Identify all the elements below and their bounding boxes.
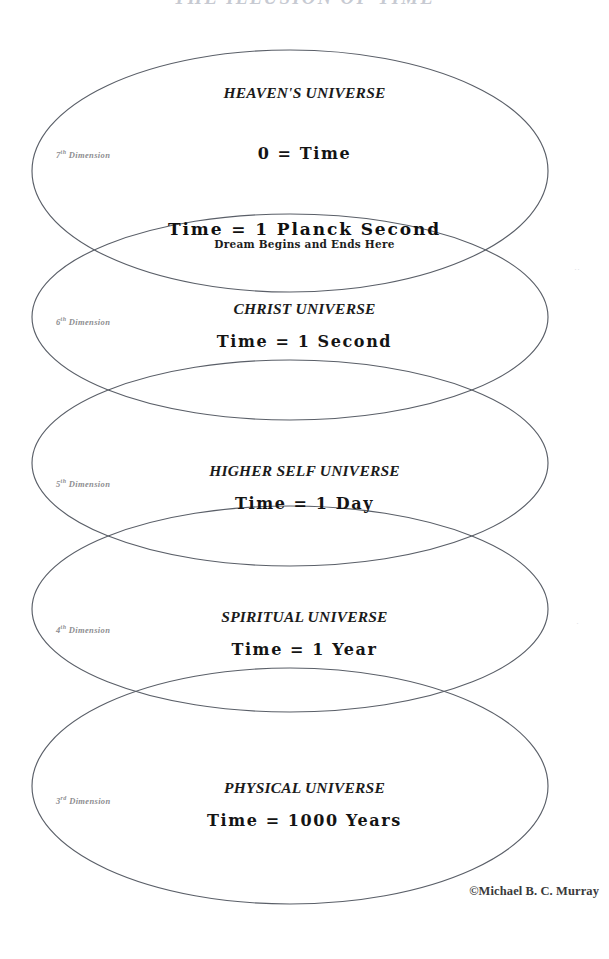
dimension-label-3rd: 3rd Dimension [56, 796, 111, 806]
zone-time-row-spiritual-universe: Time = 1 Year [0, 640, 609, 659]
dream-begins-ends-label: Dream Begins and Ends Here [0, 238, 609, 250]
dimension-word-7: Dimension [69, 150, 110, 160]
dimension-ordinal-7: th [61, 149, 67, 155]
zone-christ-universe: CHRIST UNIVERSE [0, 300, 609, 318]
zone-heavens-universe: HEAVEN'S UNIVERSE [0, 84, 609, 102]
zone-spiritual-universe: SPIRITUAL UNIVERSE [0, 608, 609, 626]
zone-title-higher-self-universe: HIGHER SELF UNIVERSE [0, 462, 609, 480]
dimension-ordinal-6: th [61, 316, 67, 322]
diagram-page: THE ILLUSION OF TIME HEAVEN'S UNIVERSE 0… [0, 0, 609, 959]
dimension-ordinal-5: th [61, 478, 67, 484]
zone-time-physical-universe: Time = 1000 Years [0, 811, 609, 830]
dimension-word-4: Dimension [69, 625, 110, 635]
dimension-label-6th: 6th Dimension [56, 317, 110, 327]
zone-title-heavens-universe: HEAVEN'S UNIVERSE [0, 84, 609, 102]
dimension-label-4th: 4th Dimension [56, 625, 110, 635]
dimension-word-3: Dimension [69, 796, 110, 806]
dimension-word-5: Dimension [69, 479, 110, 489]
zone-time-row-physical-universe: Time = 1000 Years [0, 811, 609, 830]
zone-title-physical-universe: PHYSICAL UNIVERSE [0, 779, 609, 797]
text-layer: HEAVEN'S UNIVERSE 0 = Time 7th Dimension… [0, 0, 609, 959]
dimension-label-7th: 7th Dimension [56, 150, 110, 160]
zone-time-row-christ-universe: Time = 1 Second [0, 332, 609, 351]
zone-higher-self-universe: HIGHER SELF UNIVERSE [0, 462, 609, 480]
zone-title-spiritual-universe: SPIRITUAL UNIVERSE [0, 608, 609, 626]
zone-time-christ-universe: Time = 1 Second [0, 332, 609, 351]
copyright-notice: ©Michael B. C. Murray [469, 884, 599, 899]
zone-time-spiritual-universe: Time = 1 Year [0, 640, 609, 659]
zone-time-row-higher-self-universe: Time = 1 Day [0, 494, 609, 513]
scan-artifact-icon: ․․ [574, 262, 580, 272]
dimension-ordinal-3: rd [61, 795, 67, 801]
dimension-ordinal-4: th [61, 624, 67, 630]
dimension-word-6: Dimension [69, 317, 110, 327]
zone-time-higher-self-universe: Time = 1 Day [0, 494, 609, 513]
zone-title-christ-universe: CHRIST UNIVERSE [0, 300, 609, 318]
planck-second-label: Time = 1 Planck Second [0, 219, 609, 239]
zone-physical-universe: PHYSICAL UNIVERSE [0, 779, 609, 797]
dimension-label-5th: 5th Dimension [56, 479, 110, 489]
scan-artifact-icon: ․ [576, 616, 579, 626]
